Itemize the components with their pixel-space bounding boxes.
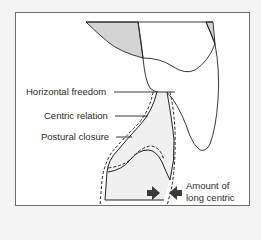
label-centric-relation: Centric relation (44, 110, 108, 121)
label-postural-closure: Postural closure (41, 131, 109, 142)
upper-left-shaded-region (86, 22, 143, 58)
label-horizontal-freedom: Horizontal freedom (26, 86, 106, 97)
upper-gum-line (143, 44, 215, 72)
label-long-centric: long centric (186, 192, 235, 203)
label-amount-of: Amount of (186, 180, 229, 191)
lower-tooth-light-region (105, 92, 175, 200)
left-pointing-arrow-icon (169, 186, 182, 200)
upper-right-tooth-contour (167, 22, 219, 150)
